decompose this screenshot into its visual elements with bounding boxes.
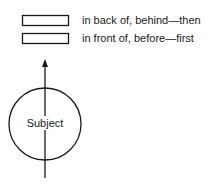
front-box — [23, 34, 69, 44]
arrowhead-icon — [42, 59, 48, 67]
back-box — [23, 16, 69, 26]
subject-label: Subject — [9, 117, 81, 129]
subject-orientation-diagram: in back of, behind—then in front of, bef… — [0, 0, 210, 186]
front-label: in front of, before—first — [82, 32, 194, 44]
back-label: in back of, behind—then — [82, 14, 201, 26]
diagram-canvas — [0, 0, 210, 186]
